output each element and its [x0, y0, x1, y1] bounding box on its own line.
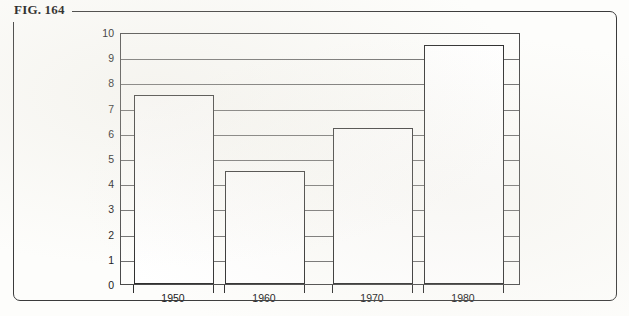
- figure-page: 109876543210 1950196019701980 FIG. 164: [0, 0, 629, 316]
- figure-label: FIG. 164: [14, 2, 65, 18]
- figure-border: [13, 11, 617, 301]
